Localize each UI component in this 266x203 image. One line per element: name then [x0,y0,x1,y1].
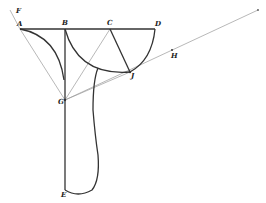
curve-to-E [65,68,98,194]
geometry-diagram: A B C D F G H J E [0,0,266,203]
label-F: F [15,6,22,15]
point-G-dot [64,99,66,101]
line-C-J [110,29,130,72]
label-H: H [170,51,178,60]
label-G: G [58,97,64,106]
line-G-A [20,29,65,100]
label-C: C [107,18,113,27]
label-A: A [16,19,23,28]
arc-B-J-D [65,29,155,72]
label-D: D [154,19,162,28]
label-E: E [60,190,67,199]
label-B: B [61,18,68,27]
arc-A [20,29,64,80]
ray-end-dot [257,9,259,11]
